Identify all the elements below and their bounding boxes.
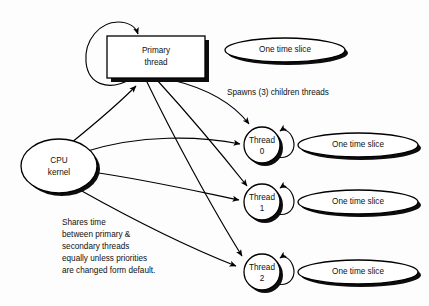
- time-slice-1[interactable]: One time slice: [298, 133, 421, 160]
- thread1-label-line1: Thread: [249, 193, 275, 202]
- edge-kernel-to-primary: [71, 86, 136, 143]
- note-line-4: equally unless priorities: [62, 254, 147, 263]
- time-slice-3-label: One time slice: [332, 267, 384, 276]
- diagram-canvas: Primary thread CPU kernel Thread 0 Threa…: [0, 0, 429, 306]
- primary-thread-label-line2: thread: [144, 58, 168, 67]
- thread0-label-line1: Thread: [249, 136, 275, 145]
- cpu-kernel-ellipse: [21, 139, 97, 193]
- node-primary-thread[interactable]: Primary thread: [107, 36, 209, 82]
- kernel-share-note: Shares time between primary & secondary …: [62, 218, 155, 275]
- edge-kernel-to-thread0: [84, 138, 240, 152]
- edge-primary-to-thread2: [146, 80, 242, 256]
- time-slice-1-label: One time slice: [332, 140, 384, 149]
- time-slice-2-label: One time slice: [332, 197, 384, 206]
- edge-kernel-to-thread1: [92, 172, 239, 200]
- thread-scheduling-diagram: Primary thread CPU kernel Thread 0 Threa…: [0, 0, 429, 306]
- node-cpu-kernel[interactable]: CPU kernel: [21, 139, 100, 196]
- primary-thread-box: [107, 36, 205, 78]
- note-line-3: secondary threads: [62, 242, 129, 251]
- primary-thread-label-line1: Primary: [142, 46, 171, 55]
- time-slice-3[interactable]: One time slice: [298, 260, 421, 287]
- node-thread-2[interactable]: Thread 2: [244, 254, 283, 293]
- note-line-2: between primary &: [62, 230, 131, 239]
- note-line-1: Shares time: [62, 218, 106, 227]
- note-line-5: are changed form default.: [62, 266, 155, 275]
- time-slice-0[interactable]: One time slice: [225, 38, 348, 65]
- thread2-label-line2: 2: [260, 274, 265, 283]
- cpu-kernel-label-line2: kernel: [48, 168, 70, 177]
- thread1-label-line2: 1: [260, 204, 265, 213]
- node-thread-0[interactable]: Thread 0: [244, 127, 283, 166]
- thread2-label-line1: Thread: [249, 263, 275, 272]
- spawns-annotation: Spawns (3) children threads: [227, 88, 329, 97]
- time-slice-0-label: One time slice: [259, 45, 311, 54]
- node-thread-1[interactable]: Thread 1: [244, 184, 283, 223]
- thread0-label-line2: 0: [260, 147, 265, 156]
- cpu-kernel-label-line1: CPU: [50, 156, 67, 165]
- edge-primary-to-thread0: [172, 80, 249, 124]
- time-slice-2[interactable]: One time slice: [298, 190, 421, 217]
